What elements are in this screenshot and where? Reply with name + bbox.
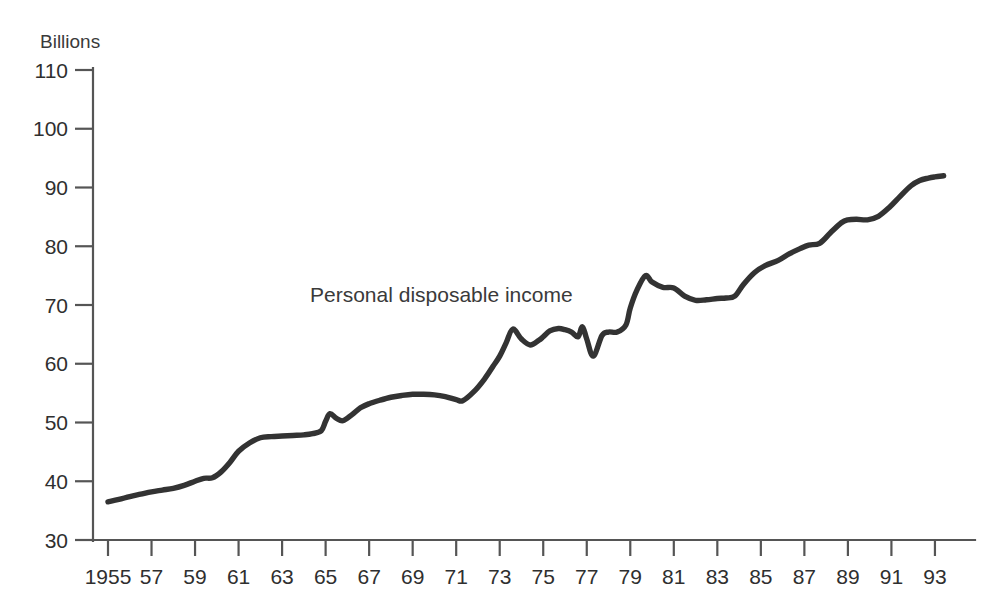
y-tick-label: 30	[45, 529, 68, 552]
line-chart: 30405060708090100110 1955575961636567697…	[0, 0, 1005, 601]
data-series-line-personal-disposable-income	[108, 176, 944, 502]
y-tick-label: 70	[45, 294, 68, 317]
x-tick-label: 81	[662, 565, 685, 588]
y-axis-tick-marks	[75, 70, 93, 540]
y-tick-label: 100	[33, 117, 68, 140]
y-axis-tick-labels: 30405060708090100110	[33, 59, 68, 552]
x-tick-label: 91	[880, 565, 903, 588]
x-axis-tick-labels: 1955575961636567697173757779818385878991…	[85, 565, 947, 588]
x-tick-label: 87	[793, 565, 816, 588]
chart-container: 30405060708090100110 1955575961636567697…	[0, 0, 1005, 601]
y-tick-label: 60	[45, 352, 68, 375]
x-tick-label: 67	[357, 565, 380, 588]
y-tick-label: 80	[45, 235, 68, 258]
y-tick-label: 50	[45, 411, 68, 434]
x-tick-label: 61	[227, 565, 250, 588]
x-tick-label: 93	[923, 565, 946, 588]
x-tick-label: 57	[140, 565, 163, 588]
x-tick-label: 89	[836, 565, 859, 588]
x-tick-label: 65	[314, 565, 337, 588]
y-tick-label: 90	[45, 176, 68, 199]
x-tick-label: 73	[488, 565, 511, 588]
x-tick-label: 77	[575, 565, 598, 588]
x-tick-label: 85	[749, 565, 772, 588]
x-tick-label: 71	[445, 565, 468, 588]
x-tick-label: 69	[401, 565, 424, 588]
y-tick-label: 40	[45, 470, 68, 493]
x-tick-label: 1955	[85, 565, 132, 588]
x-tick-label: 59	[183, 565, 206, 588]
x-tick-label: 79	[619, 565, 642, 588]
y-tick-label: 110	[35, 59, 68, 82]
series-inline-label: Personal disposable income	[310, 283, 573, 306]
x-axis-tick-marks	[108, 540, 935, 556]
x-tick-label: 63	[270, 565, 293, 588]
x-tick-label: 83	[706, 565, 729, 588]
y-axis-unit-label: Billions	[40, 31, 100, 52]
x-tick-label: 75	[532, 565, 555, 588]
